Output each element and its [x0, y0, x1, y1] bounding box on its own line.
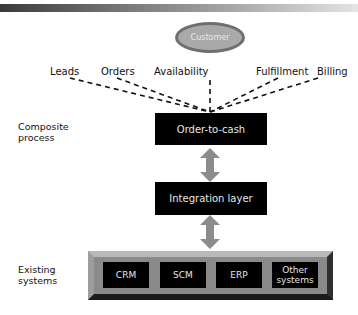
system-other: Othersystems	[272, 262, 318, 288]
composite-process-label: Composite process	[18, 121, 69, 143]
system-scm: SCM	[160, 262, 206, 288]
channel-billing: Billing	[317, 66, 348, 77]
channel-leads: Leads	[50, 66, 79, 77]
customer-node: Customer	[175, 22, 245, 53]
system-erp: ERP	[216, 262, 262, 288]
channel-fulfillment: Fulfillment	[256, 66, 308, 77]
customer-label: Customer	[191, 33, 230, 42]
existing-systems-label: Existing systems	[18, 264, 57, 286]
order-to-cash-box: Order-to-cash	[155, 113, 267, 145]
channel-orders: Orders	[101, 66, 135, 77]
system-crm: CRM	[103, 262, 149, 288]
channel-availability: Availability	[154, 66, 209, 77]
integration-layer-box: Integration layer	[155, 182, 267, 215]
